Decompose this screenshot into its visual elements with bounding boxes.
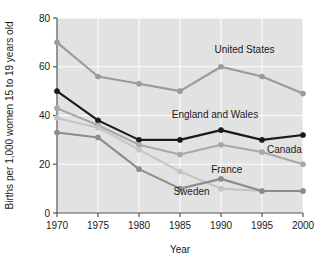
data-point (218, 176, 223, 181)
data-point (95, 135, 100, 140)
x-tick-label: 1970 (46, 220, 69, 231)
series-label-canada: Canada (267, 144, 302, 155)
data-point (54, 40, 59, 45)
data-point (136, 81, 141, 86)
data-point (300, 132, 305, 137)
data-point (95, 125, 100, 130)
data-point (136, 142, 141, 147)
y-tick-label: 20 (39, 159, 51, 170)
data-point (218, 142, 223, 147)
data-point (54, 89, 59, 94)
line-chart: 020406080 1970197519801985199019952000 U… (0, 0, 319, 267)
data-point (177, 169, 182, 174)
data-point (300, 91, 305, 96)
series-label-england-and-wales: England and Wales (172, 109, 258, 120)
data-point (54, 130, 59, 135)
y-tick-label: 80 (39, 13, 51, 24)
data-point (300, 162, 305, 167)
y-axis-title: Births per 1,000 women 15 to 19 years ol… (4, 22, 15, 210)
x-tick-label: 2000 (292, 220, 315, 231)
data-point (259, 137, 264, 142)
data-point (300, 188, 305, 193)
data-point (177, 137, 182, 142)
data-point (259, 188, 264, 193)
x-axis-title: Year (170, 244, 191, 255)
series-label-sweden: Sweden (173, 186, 209, 197)
x-tick-label: 1975 (87, 220, 110, 231)
y-tick-label: 0 (44, 208, 50, 219)
x-tick-label: 1995 (251, 220, 274, 231)
x-tick-label: 1980 (128, 220, 151, 231)
chart-figure: 020406080 1970197519801985199019952000 U… (0, 0, 319, 267)
x-tick-label: 1985 (169, 220, 192, 231)
series-label-france: France (211, 164, 243, 175)
data-point (136, 147, 141, 152)
data-point (95, 74, 100, 79)
x-tick-label: 1990 (210, 220, 233, 231)
y-tick-label: 60 (39, 61, 51, 72)
data-point (259, 149, 264, 154)
series-label-united-states: United States (214, 44, 274, 55)
data-point (177, 89, 182, 94)
data-point (54, 106, 59, 111)
y-tick-label: 40 (39, 110, 51, 121)
data-point (259, 74, 264, 79)
data-point (95, 118, 100, 123)
data-point (177, 152, 182, 157)
data-point (218, 64, 223, 69)
data-point (218, 128, 223, 133)
data-point (136, 167, 141, 172)
data-point (218, 186, 223, 191)
data-point (54, 115, 59, 120)
data-point (136, 137, 141, 142)
